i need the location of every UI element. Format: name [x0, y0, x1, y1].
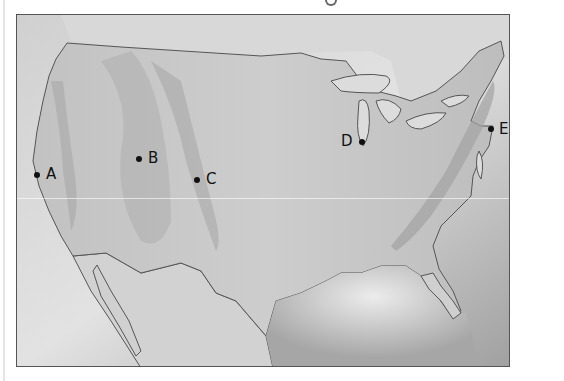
map-point-d-marker	[359, 139, 365, 145]
title-text-fragment	[325, 0, 337, 6]
map-point-c-label: C	[206, 172, 216, 187]
map-point-b-marker	[136, 156, 142, 162]
map-point-e-label: E	[499, 122, 508, 137]
map-graticule-line	[17, 198, 509, 199]
us-relief-map	[16, 14, 510, 367]
page-margin-rule	[3, 0, 5, 381]
map-point-b-label: B	[148, 151, 158, 166]
map-point-e-marker	[488, 126, 494, 132]
map-graphics	[17, 15, 510, 367]
map-point-a-marker	[34, 172, 40, 178]
map-point-c-marker	[194, 177, 200, 183]
map-point-a-label: A	[46, 167, 56, 182]
map-point-d-label: D	[341, 134, 353, 149]
